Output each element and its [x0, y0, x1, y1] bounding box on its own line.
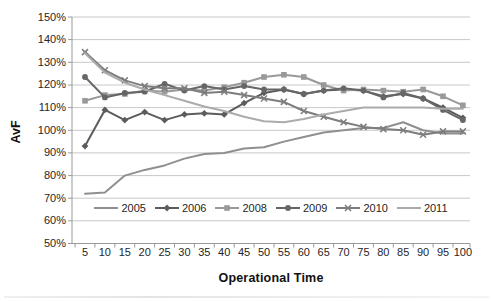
- y-tick-label: 140%: [0, 33, 66, 46]
- y-tick-label: 60%: [0, 214, 66, 227]
- square-marker: [460, 103, 466, 109]
- diamond-marker: [161, 117, 168, 124]
- page-artifact-line: [4, 296, 489, 298]
- legend-item-2006: 2006: [155, 202, 206, 214]
- legend-sample-2008: [215, 203, 239, 213]
- legend-item-2010: 2010: [336, 202, 387, 214]
- y-tick-label: 70%: [0, 192, 66, 205]
- circle-marker: [102, 95, 108, 101]
- legend-sample-2009: [276, 203, 300, 213]
- square-marker: [420, 87, 426, 93]
- square-marker: [281, 72, 287, 78]
- y-tick-label: 80%: [0, 169, 66, 182]
- y-tick-label: 50%: [0, 237, 66, 250]
- square-marker: [261, 74, 267, 80]
- square-marker: [82, 98, 88, 104]
- x-tick-label: 100: [451, 246, 475, 258]
- circle-marker: [420, 96, 426, 102]
- legend-label: 2006: [182, 202, 206, 214]
- circle-marker: [361, 88, 367, 94]
- legend-sample-2005: [94, 203, 118, 213]
- circle-marker: [261, 87, 267, 93]
- circle-marker: [321, 88, 327, 94]
- circle-marker: [285, 205, 291, 211]
- diamond-marker: [181, 111, 188, 118]
- y-tick-label: 150%: [0, 11, 66, 24]
- legend-item-2011: 2011: [397, 202, 448, 214]
- circle-marker: [122, 90, 128, 96]
- diamond-marker: [201, 110, 208, 117]
- legend-sample-2011: [397, 203, 421, 213]
- circle-marker: [301, 91, 307, 97]
- legend: 200520062008200920102011: [72, 202, 470, 214]
- legend-label: 2005: [121, 202, 145, 214]
- square-marker: [301, 74, 307, 80]
- legend-sample-2006: [155, 203, 179, 213]
- y-tick-label: 130%: [0, 56, 66, 69]
- legend-sample-2010: [336, 203, 360, 213]
- legend-item-2009: 2009: [276, 202, 327, 214]
- series-2006-line: [85, 90, 463, 147]
- diamond-marker: [121, 117, 128, 124]
- legend-label: 2010: [363, 202, 387, 214]
- diamond-marker: [141, 109, 148, 116]
- circle-marker: [82, 74, 88, 80]
- y-axis-title-wrap: AvF: [9, 111, 23, 153]
- square-marker: [321, 82, 327, 88]
- circle-marker: [281, 87, 287, 93]
- diamond-marker: [164, 205, 171, 212]
- circle-marker: [241, 83, 247, 89]
- x-axis-title: Operational Time: [72, 271, 470, 285]
- square-marker: [440, 94, 446, 100]
- legend-label: 2009: [303, 202, 327, 214]
- square-marker: [381, 88, 387, 94]
- y-tick-label: 120%: [0, 78, 66, 91]
- y-axis-title: AvF: [9, 111, 23, 153]
- circle-marker: [381, 95, 387, 101]
- legend-item-2008: 2008: [215, 202, 266, 214]
- legend-label: 2011: [424, 202, 448, 214]
- circle-marker: [341, 85, 347, 91]
- legend-item-2005: 2005: [94, 202, 145, 214]
- circle-marker: [400, 90, 406, 96]
- square-marker: [225, 205, 231, 211]
- circle-marker: [460, 117, 466, 123]
- circle-marker: [201, 83, 207, 89]
- legend-label: 2008: [242, 202, 266, 214]
